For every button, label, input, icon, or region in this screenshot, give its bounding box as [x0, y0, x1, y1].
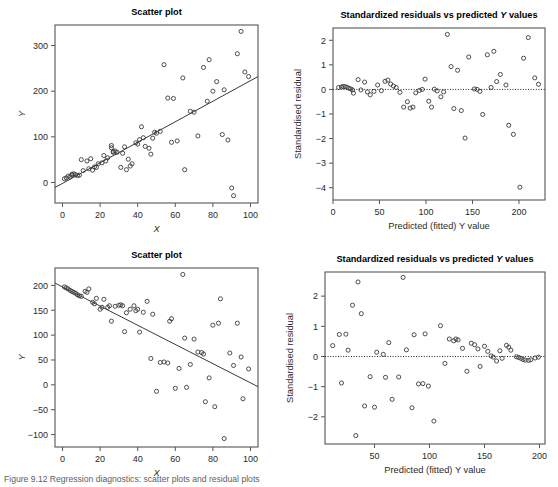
x-tick-label: 0 [330, 207, 335, 217]
x-tick-label: 50 [374, 207, 384, 217]
data-point [368, 93, 372, 97]
data-point [414, 91, 418, 95]
panel-bottom-left: Scatter plot020406080100−100−50050100150… [17, 250, 258, 478]
panel-title: Standardized residuals vs predicted Y va… [340, 10, 537, 20]
data-point [102, 297, 106, 301]
data-point [522, 56, 526, 60]
data-point [507, 123, 511, 127]
data-point [216, 321, 220, 325]
data-point [376, 83, 380, 87]
figure-svg: Scatter plot0204060801000100200300XYStan… [0, 0, 558, 487]
data-point [498, 72, 502, 76]
data-point [495, 80, 499, 84]
data-point [132, 304, 136, 308]
data-point [247, 75, 251, 79]
data-point [151, 312, 155, 316]
panel-top-right: Standardized residuals vs predicted Y va… [293, 10, 545, 231]
y-tick-label: −1 [308, 382, 318, 392]
data-point [94, 296, 98, 300]
data-point [109, 319, 113, 323]
data-points [62, 29, 250, 197]
data-point [432, 419, 436, 423]
data-point [511, 132, 515, 136]
data-point [126, 157, 130, 161]
data-point [486, 349, 490, 353]
data-point [177, 366, 181, 370]
data-point [443, 361, 447, 365]
data-point [185, 385, 189, 389]
data-point [368, 375, 372, 379]
data-point [119, 165, 123, 169]
data-point [128, 307, 132, 311]
data-point [203, 400, 207, 404]
data-point [463, 136, 467, 140]
y-tick-label: 150 [33, 306, 48, 316]
x-tick-label: 100 [418, 207, 433, 217]
y-axis-label: Standardised residual [285, 313, 295, 403]
data-point [207, 58, 211, 62]
data-point [337, 332, 341, 336]
data-point [397, 375, 401, 379]
data-point [220, 132, 224, 136]
data-point [181, 272, 185, 276]
data-point [339, 381, 343, 385]
data-points [62, 272, 250, 440]
data-point [404, 348, 408, 352]
y-axis-label: Standardised residual [293, 69, 303, 159]
data-point [215, 80, 219, 84]
data-point [239, 29, 243, 33]
plot-frame [333, 28, 545, 200]
data-point [124, 311, 128, 315]
data-points [337, 32, 541, 189]
x-tick-label: 20 [95, 454, 105, 464]
data-point [122, 330, 126, 334]
y-tick-label: 300 [33, 41, 48, 51]
data-point [485, 53, 489, 57]
data-point [465, 369, 469, 373]
plot-frame [55, 25, 258, 203]
data-point [476, 347, 480, 351]
data-point [147, 146, 151, 150]
data-point [247, 367, 251, 371]
data-point [173, 386, 177, 390]
plot-frame [325, 272, 545, 444]
data-point [149, 152, 153, 156]
data-point [166, 361, 170, 365]
y-axis-label: Y [17, 354, 27, 361]
data-point [416, 382, 420, 386]
y-tick-label: −100 [28, 430, 48, 440]
data-point [169, 140, 173, 144]
data-point [188, 362, 192, 366]
x-tick-label: 100 [243, 454, 258, 464]
data-point [331, 344, 335, 348]
data-point [526, 36, 530, 40]
y-tick-label: −4 [316, 183, 326, 193]
data-point [447, 337, 451, 341]
data-point [207, 376, 211, 380]
x-tick-label: 60 [170, 210, 180, 220]
data-point [533, 76, 537, 80]
data-point [421, 382, 425, 386]
data-point [430, 105, 434, 109]
data-point [201, 65, 205, 69]
panel-bottom-right: Standardized residuals vs predicted Y va… [285, 254, 547, 475]
panel-top-left: Scatter plot0204060801000100200300XY [17, 7, 258, 234]
y-tick-label: 0 [43, 178, 48, 188]
x-tick-label: 80 [208, 454, 218, 464]
data-point [381, 352, 385, 356]
data-point [87, 287, 91, 291]
data-point [151, 136, 155, 140]
data-point [536, 82, 540, 86]
x-tick-label: 0 [60, 454, 65, 464]
data-point [467, 55, 471, 59]
data-point [398, 90, 402, 94]
data-point [239, 355, 243, 359]
panel-title: Scatter plot [131, 250, 182, 260]
data-point [211, 89, 215, 93]
data-point [518, 185, 522, 189]
x-tick-label: 200 [532, 451, 547, 461]
y-tick-label: 0 [321, 85, 326, 95]
data-point [196, 134, 200, 138]
data-point [363, 404, 367, 408]
data-point [350, 303, 354, 307]
